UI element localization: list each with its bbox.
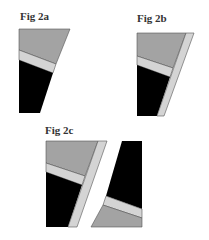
fig-2a-diagram <box>19 29 70 113</box>
figures-canvas <box>0 0 209 240</box>
fig-2c-diagram <box>46 141 142 227</box>
fig-2b-diagram <box>137 33 194 116</box>
